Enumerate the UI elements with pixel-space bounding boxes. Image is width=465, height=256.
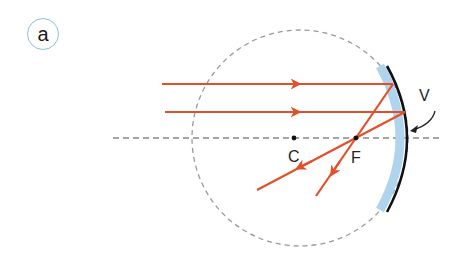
concave-mirror-diagram: C F V [0,0,465,256]
vertex-label: V [419,87,430,104]
reflected-ray-1 [316,84,393,196]
vertex-pointer-head [410,125,418,133]
focus-label: F [351,149,361,166]
focus-point [354,136,359,141]
reflected-ray-2-arrow [300,161,312,167]
reflected-ray-2 [257,112,405,190]
center-label: C [288,148,300,165]
center-point [292,136,297,141]
reflected-ray-1-arrow [333,161,340,172]
